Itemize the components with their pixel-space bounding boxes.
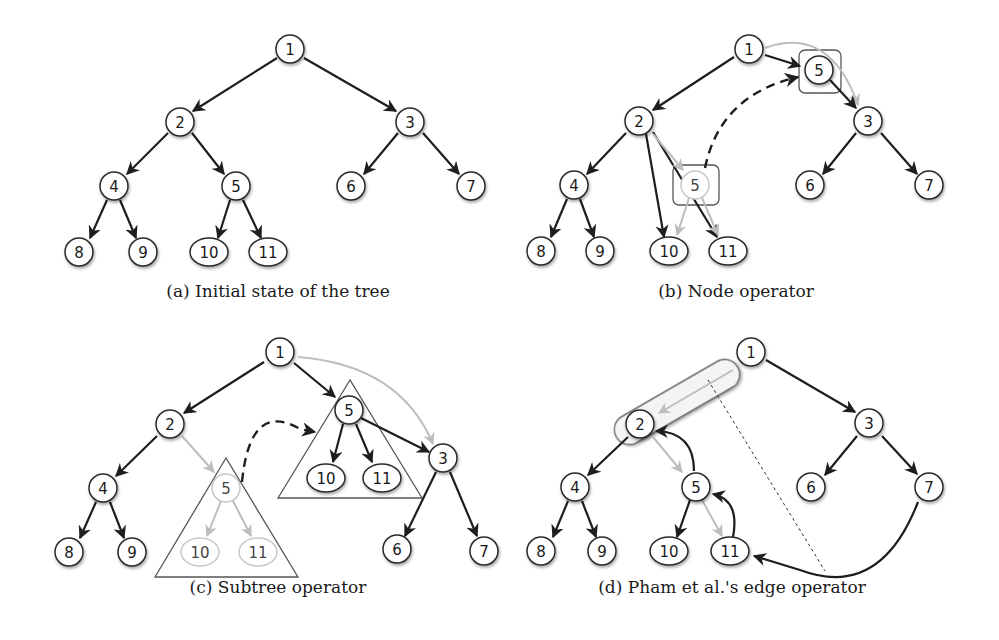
tree-edge-dashed (242, 421, 315, 482)
tree-node: 5 (222, 172, 250, 200)
tree-edge-black (294, 363, 335, 397)
node-label: 1 (746, 344, 756, 362)
node-label: 8 (64, 544, 74, 562)
tree-node: 3 (429, 444, 457, 472)
node-label: 10 (659, 243, 678, 261)
tree-edge-gray (653, 437, 682, 472)
tree-node: 11 (249, 238, 287, 266)
node-label: 10 (199, 244, 218, 262)
tree-node: 4 (560, 171, 588, 199)
tree-edge-black (580, 199, 594, 237)
tree-node: 1 (735, 35, 763, 63)
node-label: 5 (344, 402, 354, 420)
tree-node: 7 (470, 537, 498, 565)
tree-edge-black (405, 472, 436, 536)
tree-edge-black (825, 436, 857, 475)
node-label: 1 (285, 41, 295, 59)
tree-edge-gray (653, 134, 683, 170)
node-label: 2 (165, 416, 175, 434)
panel-a-initial-tree: 1234567891011(a) Initial state of the tr… (65, 35, 485, 301)
panel-caption: (d) Pham et al.'s edge operator (598, 577, 866, 597)
tree-node: 8 (55, 538, 83, 566)
tree-node: 5 (805, 56, 833, 84)
node-label: 7 (924, 177, 934, 195)
tree-node: 5 (212, 474, 240, 502)
node-label: 5 (231, 178, 241, 196)
node-label: 6 (392, 541, 402, 559)
node-label: 2 (635, 416, 645, 434)
tree-edge-black (646, 134, 664, 237)
node-label: 4 (109, 178, 119, 196)
tree-edge-black (551, 199, 567, 237)
tree-node: 9 (129, 238, 157, 266)
node-label: 9 (597, 543, 607, 561)
tree-operators-figure: 1234567891011(a) Initial state of the tr… (0, 0, 999, 640)
tree-node: 8 (65, 238, 93, 266)
node-label: 8 (74, 244, 84, 262)
tree-node: 10 (190, 238, 228, 266)
tree-node: 7 (915, 171, 943, 199)
tree-node: 8 (527, 537, 555, 565)
node-label: 11 (718, 243, 737, 261)
node-label: 11 (258, 244, 277, 262)
tree-node: 10 (181, 538, 219, 566)
tree-edge-black (754, 502, 918, 577)
tree-edge-black (127, 133, 168, 174)
tree-edge-black (361, 418, 429, 452)
node-label: 7 (924, 479, 934, 497)
panel-c-subtree-operator: 152345101167891011(c) Subtree operator (55, 338, 498, 597)
tree-node: 1 (737, 338, 765, 366)
tree-edge-black (364, 133, 398, 174)
panel-caption: (c) Subtree operator (190, 577, 368, 597)
tree-edge-black (356, 424, 372, 462)
node-label: 10 (190, 544, 209, 562)
tree-node: 6 (337, 172, 365, 200)
tree-edge-black (830, 80, 856, 108)
tree-node: 8 (527, 237, 555, 265)
tree-node: 5 (682, 473, 710, 501)
tree-node: 2 (156, 410, 184, 438)
tree-edge-black (116, 436, 157, 476)
node-label: 9 (595, 243, 605, 261)
tree-node: 11 (711, 537, 749, 565)
panel-d-edge-operator: 1234567891011(d) Pham et al.'s edge oper… (527, 338, 943, 597)
tree-node: 6 (797, 473, 825, 501)
tree-node: 3 (396, 108, 424, 136)
tree-edge-gray (182, 436, 214, 472)
tree-node: 2 (625, 107, 653, 135)
tree-node: 2 (166, 108, 194, 136)
node-label: 8 (536, 243, 546, 261)
panel-caption: (b) Node operator (658, 281, 815, 301)
tree-node: 1 (276, 35, 304, 63)
node-label: 10 (659, 543, 678, 561)
node-label: 2 (175, 114, 185, 132)
node-label: 11 (248, 544, 267, 562)
tree-node: 2 (626, 410, 654, 438)
node-label: 3 (864, 415, 874, 433)
tree-edge-black (588, 437, 628, 475)
tree-edge-black (677, 500, 690, 537)
tree-edge-black (184, 362, 264, 413)
node-label: 6 (806, 479, 816, 497)
tree-edge-black (653, 57, 734, 110)
tree-node: 10 (650, 537, 688, 565)
node-label: 6 (805, 177, 815, 195)
tree-node: 10 (650, 237, 688, 265)
node-label: 8 (536, 543, 546, 561)
node-label: 3 (863, 113, 873, 131)
tree-node: 4 (100, 172, 128, 200)
tree-node: 5 (681, 171, 709, 199)
node-label: 1 (744, 41, 754, 59)
tree-node: 6 (383, 535, 411, 563)
tree-edge-black (587, 133, 626, 174)
tree-node: 11 (239, 538, 277, 566)
tree-edge-gray (233, 501, 251, 536)
tree-edge-gray (702, 500, 722, 536)
node-label: 11 (720, 543, 739, 561)
tree-node: 3 (854, 107, 882, 135)
node-label: 4 (98, 480, 108, 498)
tree-edge-black (333, 424, 343, 462)
tree-edge-black (192, 133, 224, 174)
tree-edge-dashed (705, 77, 798, 168)
node-label: 5 (690, 177, 700, 195)
